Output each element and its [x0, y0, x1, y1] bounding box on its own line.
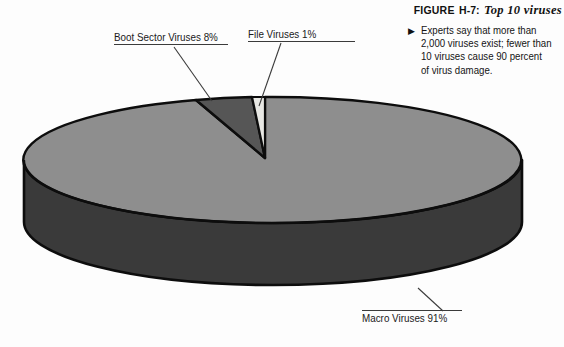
callout-macro-label: Macro Viruses 91% — [362, 312, 455, 324]
callout-file-label: File Viruses 1% — [248, 28, 348, 40]
callout-macro-rule — [362, 310, 462, 311]
callout-boot-sector-rule — [114, 44, 228, 45]
callout-macro: Macro Viruses 91% — [362, 310, 462, 324]
triangle-bullet-icon: ▶ — [408, 26, 415, 36]
figure-caption-block: FIGURE H-7: Top 10 viruses ▶ Experts say… — [386, 2, 562, 17]
figure-label: FIGURE — [414, 4, 455, 16]
callout-boot-sector-label: Boot Sector Viruses 8% — [114, 31, 220, 43]
leader-line-macro — [418, 288, 443, 311]
figure-caption-body-wrap: ▶ Experts say that more than 2,000 virus… — [408, 24, 562, 77]
leader-line-boot-sector — [174, 47, 212, 101]
figure-page: Boot Sector Viruses 8% File Viruses 1% M… — [0, 0, 564, 347]
figure-number: H-7: — [459, 4, 479, 16]
figure-title: Top 10 viruses — [484, 3, 562, 17]
callout-boot-sector: Boot Sector Viruses 8% — [114, 31, 228, 45]
figure-caption-body: Experts say that more than 2,000 viruses… — [421, 24, 552, 77]
callout-file-rule — [248, 41, 355, 42]
callout-file: File Viruses 1% — [248, 28, 355, 42]
figure-caption-title: FIGURE H-7: Top 10 viruses — [386, 2, 562, 17]
